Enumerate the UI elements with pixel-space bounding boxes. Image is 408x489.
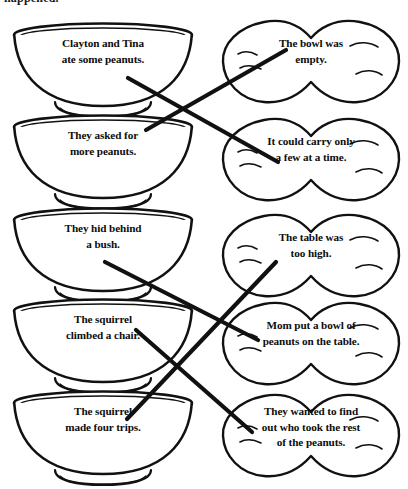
nut-5-shape: [223, 395, 399, 476]
nut-1-shape: [223, 21, 399, 102]
nut-2-shape: [223, 119, 399, 200]
bowl-2-shape: [14, 116, 192, 210]
worksheet-artwork: [0, 0, 408, 489]
nut-3-shape: [223, 215, 399, 296]
bowl-3-shape: [14, 209, 192, 303]
bowl-1-shape: [14, 24, 192, 118]
bowl-5-shape: [14, 392, 192, 486]
worksheet-page: happened.: [0, 0, 408, 489]
nut-4-shape: [223, 303, 399, 384]
